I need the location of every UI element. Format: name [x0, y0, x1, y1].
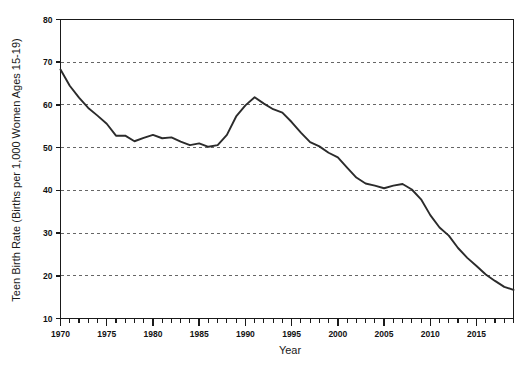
data-series-line [61, 69, 514, 289]
y-tick-label: 70 [43, 57, 53, 67]
y-tick-label: 50 [43, 143, 53, 153]
x-tick-label: 1985 [190, 329, 209, 339]
y-tick-label: 10 [43, 314, 53, 324]
x-axis-title: Year [279, 344, 302, 356]
x-axis-major-ticks [61, 319, 477, 326]
x-axis-tick-labels: 1970197519801985199019952000200520102015 [51, 329, 486, 339]
x-tick-label: 1995 [282, 329, 301, 339]
y-tick-label: 40 [43, 185, 53, 195]
line-chart: 1020304050607080 19701975198019851990199… [0, 0, 532, 368]
y-tick-label: 20 [43, 271, 53, 281]
plot-frame [61, 20, 514, 319]
y-tick-label: 60 [43, 100, 53, 110]
x-tick-label: 1970 [51, 329, 70, 339]
chart-container: 1020304050607080 19701975198019851990199… [0, 0, 532, 368]
x-tick-label: 2000 [328, 329, 347, 339]
x-tick-label: 2015 [467, 329, 486, 339]
y-tick-label: 30 [43, 228, 53, 238]
x-tick-label: 1990 [236, 329, 255, 339]
y-axis-title: Teen Birth Rate (Births per 1,000 Women … [10, 38, 22, 301]
x-tick-label: 1980 [143, 329, 162, 339]
x-tick-label: 2005 [375, 329, 394, 339]
y-tick-label: 80 [43, 15, 53, 25]
x-tick-label: 1975 [97, 329, 116, 339]
gridlines-group [61, 62, 514, 276]
y-axis-tick-labels: 1020304050607080 [43, 15, 53, 324]
x-tick-label: 2010 [421, 329, 440, 339]
